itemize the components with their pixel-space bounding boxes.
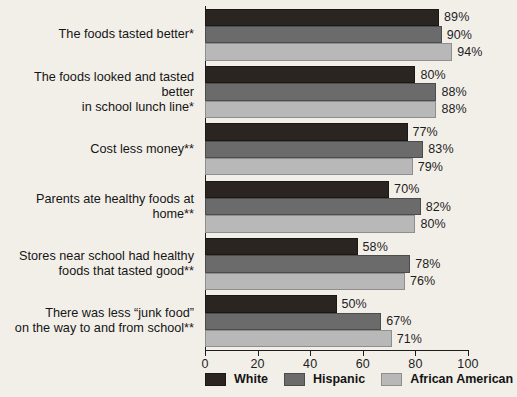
bar-value-label: 77%: [413, 125, 438, 139]
category-label: Stores near school had healthyfoods that…: [0, 249, 194, 279]
bar-row: 88%: [205, 101, 468, 118]
bar-hispanic: [205, 26, 442, 43]
bar-row: 80%: [205, 215, 468, 232]
bar-value-label: 88%: [441, 85, 466, 99]
bar-african-american: [205, 273, 405, 290]
x-tick-label-100: 100: [457, 357, 478, 371]
bar-value-label: 79%: [418, 160, 443, 174]
bar-african-american: [205, 215, 415, 232]
bar-group: 58%78%76%: [205, 238, 468, 290]
bar-white: [205, 123, 408, 140]
x-tick-40: [310, 351, 311, 356]
x-tick-80: [415, 351, 416, 356]
bar-value-label: 82%: [426, 200, 451, 214]
x-tick-20: [258, 351, 259, 356]
bar-row: 79%: [205, 158, 468, 175]
bar-row: 82%: [205, 198, 468, 215]
bar-row: 94%: [205, 43, 468, 60]
bar-value-label: 94%: [457, 45, 482, 59]
category-label: There was less “junk food”on the way to …: [0, 306, 194, 336]
bar-group: 50%67%71%: [205, 295, 468, 347]
legend-item-african-american[interactable]: African American: [381, 372, 513, 386]
bar-white: [205, 181, 389, 198]
chart-legend: WhiteHispanicAfrican American: [205, 372, 517, 386]
bar-value-label: 71%: [397, 332, 422, 346]
category-label-line: in school lunch line*: [0, 100, 194, 115]
bar-hispanic: [205, 141, 423, 158]
bar-row: 77%: [205, 123, 468, 140]
legend-item-white[interactable]: White: [205, 372, 268, 386]
category-label: The foods tasted better*: [0, 27, 194, 42]
bar-hispanic: [205, 313, 381, 330]
bar-row: 70%: [205, 181, 468, 198]
category-label-line: Cost less money**: [0, 142, 194, 157]
bar-value-label: 80%: [420, 217, 445, 231]
x-tick-60: [363, 351, 364, 356]
bar-row: 90%: [205, 26, 468, 43]
legend-swatch-icon: [381, 373, 402, 386]
category-label: Cost less money**: [0, 142, 194, 157]
bar-group: 70%82%80%: [205, 181, 468, 233]
bar-white: [205, 9, 439, 26]
bar-row: 89%: [205, 9, 468, 26]
category-label-line: Parents ate healthy foods at home**: [0, 192, 194, 222]
bar-row: 83%: [205, 141, 468, 158]
bar-row: 78%: [205, 255, 468, 272]
x-tick-label-80: 80: [408, 357, 422, 371]
bar-white: [205, 295, 337, 312]
bar-hispanic: [205, 83, 436, 100]
bar-row: 67%: [205, 313, 468, 330]
bar-value-label: 89%: [444, 10, 469, 24]
bar-group: 89%90%94%: [205, 9, 468, 61]
bar-value-label: 70%: [394, 182, 419, 196]
bar-african-american: [205, 330, 392, 347]
category-label: The foods looked and tasted betterin sch…: [0, 70, 194, 115]
bar-hispanic: [205, 255, 410, 272]
bar-row: 80%: [205, 66, 468, 83]
category-label-line: The foods tasted better*: [0, 27, 194, 42]
legend-item-hispanic[interactable]: Hispanic: [284, 372, 365, 386]
bar-value-label: 58%: [363, 240, 388, 254]
legend-label: Hispanic: [313, 372, 365, 386]
bar-african-american: [205, 43, 452, 60]
bar-group: 77%83%79%: [205, 123, 468, 175]
category-label-line: foods that tasted good**: [0, 264, 194, 279]
bar-value-label: 80%: [420, 68, 445, 82]
bar-group: 80%88%88%: [205, 66, 468, 118]
bar-african-american: [205, 158, 413, 175]
x-tick-label-20: 20: [250, 357, 264, 371]
bar-value-label: 67%: [386, 314, 411, 328]
category-label-line: The foods looked and tasted better: [0, 70, 194, 100]
bar-value-label: 76%: [410, 274, 435, 288]
bar-value-label: 78%: [415, 257, 440, 271]
bar-value-label: 83%: [428, 142, 453, 156]
category-label-line: There was less “junk food”: [0, 306, 194, 321]
bar-value-label: 90%: [447, 28, 472, 42]
category-axis-labels: The foods tasted better*The foods looked…: [0, 6, 198, 350]
x-axis-line: [205, 350, 469, 351]
bar-row: 88%: [205, 83, 468, 100]
bar-row: 50%: [205, 295, 468, 312]
legend-label: White: [234, 372, 268, 386]
bar-value-label: 50%: [342, 297, 367, 311]
legend-swatch-icon: [205, 373, 226, 386]
x-tick-label-60: 60: [356, 357, 370, 371]
bar-value-label: 88%: [441, 102, 466, 116]
x-tick-0: [205, 351, 206, 356]
category-label-line: Stores near school had healthy: [0, 249, 194, 264]
bar-row: 71%: [205, 330, 468, 347]
bar-row: 76%: [205, 273, 468, 290]
x-tick-100: [468, 351, 469, 356]
legend-label: African American: [410, 372, 513, 386]
bar-white: [205, 238, 358, 255]
bar-hispanic: [205, 198, 421, 215]
x-tick-label-40: 40: [303, 357, 317, 371]
bar-african-american: [205, 101, 436, 118]
plot-area: 020406080100 89%90%94%80%88%88%77%83%79%…: [205, 6, 468, 350]
bar-white: [205, 66, 415, 83]
category-label-line: on the way to and from school**: [0, 321, 194, 336]
legend-swatch-icon: [284, 373, 305, 386]
category-label: Parents ate healthy foods at home**: [0, 192, 194, 222]
bar-row: 58%: [205, 238, 468, 255]
